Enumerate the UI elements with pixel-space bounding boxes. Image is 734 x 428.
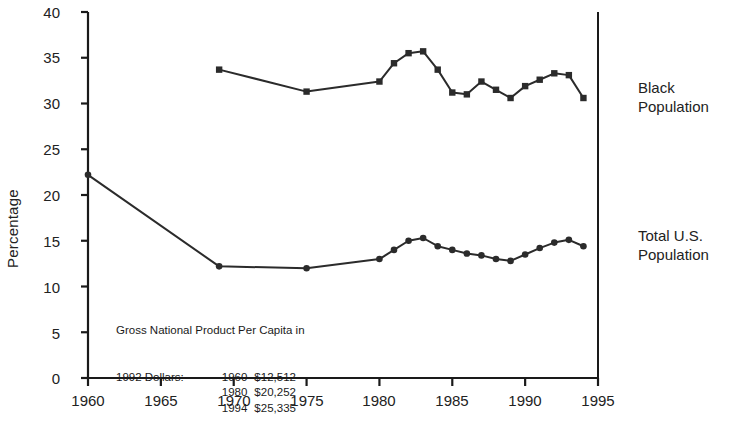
data-point-1975 xyxy=(303,88,309,94)
data-point-1991 xyxy=(536,245,543,252)
series-line xyxy=(219,51,583,98)
axis-lines xyxy=(88,12,598,378)
data-point-1981 xyxy=(391,60,397,66)
data-point-1982 xyxy=(405,50,411,56)
data-point-1984 xyxy=(435,66,441,72)
data-point-1985 xyxy=(449,247,456,254)
data-point-1990 xyxy=(522,83,528,89)
chart-container: Percentage 40 35 30 25 20 15 10 5 0 1960… xyxy=(0,0,734,428)
data-point-1988 xyxy=(493,256,500,263)
data-point-1983 xyxy=(420,235,427,242)
data-point-1993 xyxy=(566,72,572,78)
series-line xyxy=(88,175,583,268)
data-point-1983 xyxy=(420,48,426,54)
data-point-1980 xyxy=(376,78,382,84)
series-total-u-s-population xyxy=(85,172,587,272)
data-point-1992 xyxy=(551,239,558,246)
x-tick-marks xyxy=(88,378,598,386)
data-point-1969 xyxy=(216,263,223,270)
data-point-1989 xyxy=(507,258,514,265)
data-point-1986 xyxy=(464,91,470,97)
data-point-1982 xyxy=(405,237,412,244)
series-black-population xyxy=(216,48,587,101)
data-point-1989 xyxy=(507,95,513,101)
data-point-1987 xyxy=(478,78,484,84)
data-point-1985 xyxy=(449,89,455,95)
data-point-1987 xyxy=(478,252,485,259)
data-point-1986 xyxy=(464,250,471,257)
series-layer xyxy=(85,48,587,271)
data-point-1994 xyxy=(580,243,587,250)
data-point-1994 xyxy=(580,95,586,101)
data-point-1992 xyxy=(551,70,557,76)
plot-area xyxy=(0,0,734,428)
data-point-1984 xyxy=(434,243,441,250)
data-point-1993 xyxy=(566,237,573,244)
data-point-1980 xyxy=(376,256,383,263)
data-point-1990 xyxy=(522,251,529,258)
data-point-1988 xyxy=(493,87,499,93)
data-point-1991 xyxy=(537,77,543,83)
data-point-1960 xyxy=(85,172,92,179)
data-point-1981 xyxy=(391,247,398,254)
data-point-1975 xyxy=(303,265,310,272)
data-point-1969 xyxy=(216,66,222,72)
